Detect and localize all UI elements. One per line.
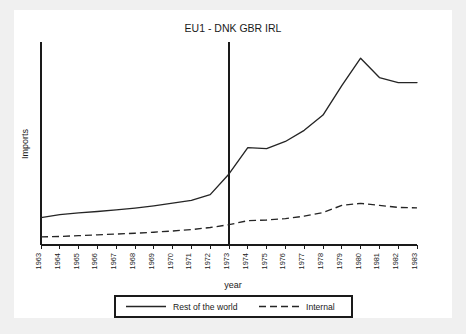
chart-canvas: EU1 - DNK GBR IRL Imports year 196319641… xyxy=(14,10,452,318)
x-axis-tick-label: 1967 xyxy=(109,253,118,269)
x-axis-title: year xyxy=(224,280,242,290)
x-axis-tick-label: 1981 xyxy=(372,253,381,269)
x-axis-tick-labels: 1963196419651966196719681969197019711972… xyxy=(34,253,419,269)
x-axis-tick-label: 1966 xyxy=(90,253,99,269)
x-axis-tick-label: 1965 xyxy=(72,253,81,269)
x-axis-tick-label: 1976 xyxy=(278,253,287,269)
chart-page: EU1 - DNK GBR IRL Imports year 196319641… xyxy=(0,0,466,334)
x-axis-tick-label: 1978 xyxy=(316,253,325,269)
x-axis-tick-label: 1982 xyxy=(391,253,400,269)
x-axis-tick-label: 1979 xyxy=(335,253,344,269)
x-axis-tick-label: 1969 xyxy=(147,253,156,269)
imports-line-chart: EU1 - DNK GBR IRL Imports year 196319641… xyxy=(14,10,452,318)
x-axis-tick-label: 1972 xyxy=(203,253,212,269)
x-axis-tick-label: 1977 xyxy=(297,253,306,269)
x-axis-tick-label: 1971 xyxy=(184,253,193,269)
legend-label-internal: Internal xyxy=(306,302,335,312)
y-axis-title: Imports xyxy=(20,129,30,160)
x-axis-tick-label: 1973 xyxy=(222,253,231,269)
x-axis-tick-label: 1975 xyxy=(260,253,269,269)
x-axis-tick-label: 1974 xyxy=(241,253,250,269)
x-axis-tick-label: 1980 xyxy=(354,253,363,269)
chart-title: EU1 - DNK GBR IRL xyxy=(185,22,282,34)
x-axis-tick-label: 1964 xyxy=(53,253,62,269)
x-axis-tick-label: 1983 xyxy=(410,253,419,269)
x-axis-ticks xyxy=(41,245,417,249)
x-axis-tick-label: 1968 xyxy=(128,253,137,269)
legend-label-rest-of-the-world: Rest of the world xyxy=(173,302,238,312)
x-axis-tick-label: 1963 xyxy=(34,253,43,269)
x-axis-tick-label: 1970 xyxy=(166,253,175,269)
